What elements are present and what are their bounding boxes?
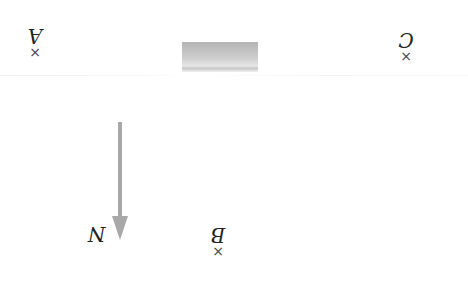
- diagram-canvas: A × C × B × N: [0, 0, 468, 283]
- gray-rectangle-obstacle: [182, 42, 258, 72]
- north-arrow-icon: [112, 122, 128, 240]
- point-b-label: B: [208, 225, 228, 245]
- point-a-label: A: [25, 26, 45, 46]
- point-c: C ×: [396, 30, 416, 62]
- point-c-label: C: [396, 30, 416, 50]
- point-a: A ×: [25, 26, 45, 58]
- north-label: N: [88, 222, 106, 246]
- point-b: B ×: [208, 225, 228, 257]
- baseline-line: [0, 75, 468, 76]
